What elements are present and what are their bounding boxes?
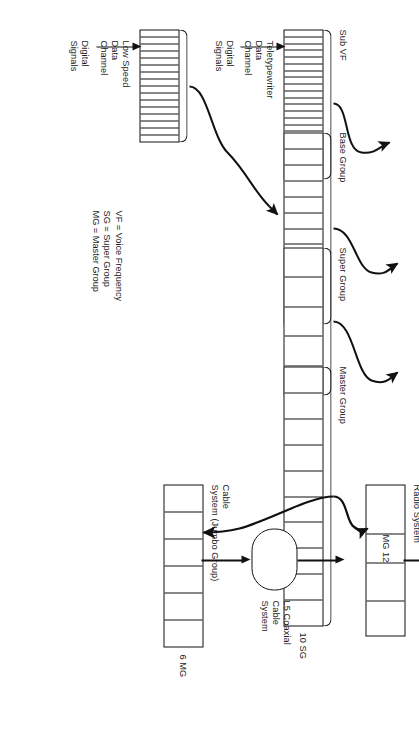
bar-cell [164,539,202,566]
bar-cell [284,77,322,84]
bar-cell [284,84,322,91]
label-l5-coaxial-cable-system: L5 Coaxial Cable System [258,600,291,644]
bar-cell [140,79,178,86]
connector-subvf2-arrowhead-path [269,206,277,214]
label-teletypewriter-data-channel: Teletypewriter Data Channel [241,40,274,98]
label-digital-signals-teletypewriter: Digital Signals [212,40,234,71]
bar-cell [284,445,322,471]
arrow-head-coax-out [335,555,344,563]
bar-cell [284,165,322,181]
bar-cell [284,57,322,64]
label-sub-vf: Sub VF [336,29,347,60]
bar-cell [284,497,322,523]
bar-cell [140,37,178,44]
bar-cell [284,197,322,213]
bar-cell [140,93,178,100]
bar-cell [164,512,202,539]
bar-cell [284,50,322,57]
bar-cell [284,336,322,365]
bar-cell [284,229,322,245]
bar-cell [284,213,322,229]
legend: VF = Voice Frequency SG = Super Group MG… [89,210,124,301]
bar-cell [284,104,322,111]
bar-cell-mg12: MG 12 [366,534,404,563]
label-cable-system-capacity: 6 MG [176,654,187,677]
bar-cell [140,51,178,58]
arrow-shaft-cable-to-coax [201,559,243,561]
arrow-head-digital-to-subvf-2 [132,42,141,50]
bar-cell [284,91,322,98]
figure-vector-overlay [0,0,419,739]
bar-cell [164,593,202,620]
bar-cell [366,563,404,601]
bar-cable-system [163,484,203,647]
bar-cell [140,114,178,121]
arrow-shaft-digital-to-subvf-2 [96,46,134,48]
bar-cell [140,107,178,114]
bar-cell [284,277,322,306]
bar-cell [284,64,322,71]
bar-cell [284,30,322,37]
bar-cell [140,128,178,135]
bar-cell [284,125,322,132]
connector-master-to-radio-system [333,496,367,530]
bar-cell [140,135,178,141]
label-super-group: Super Group [336,247,347,301]
fdm-hierarchy-figure: Sub VF Teletypewriter Data Channel Digit… [0,0,419,739]
bar-cell [140,30,178,37]
bar-cell [366,485,404,534]
label-digital-signals-lowspeed: Digital Signals [67,40,89,71]
bar-cell [284,118,322,125]
bar-cell [284,307,322,336]
arrow-head-digital-to-subvf-1 [276,42,285,50]
bar-master-group [283,366,323,626]
coaxial-terminal-capsule [251,528,297,590]
bar-cell [140,65,178,72]
bar-cell [284,248,322,277]
arrow-head-cable-to-coax [241,555,250,563]
bar-cell [284,367,322,393]
bar-cell [284,181,322,197]
bar-cell [284,71,322,78]
label-cable-system: Cable System (Jumbo Group) [208,484,230,581]
bar-cell [140,58,178,65]
bar-cell [164,485,202,512]
bar-cell [284,133,322,149]
bar-cell [164,566,202,593]
bar-cell [140,121,178,128]
bar-radio-system: MG 12 [365,484,405,636]
label-master-group: Master Group [336,366,347,423]
bar-cell [164,620,202,646]
bar-cell [140,86,178,93]
label-master-group-capacity: 10 SG [296,632,307,659]
label-mg-12: MG 12 [380,534,391,562]
bar-cell [140,100,178,107]
bar-cell [284,419,322,445]
bar-cell [284,37,322,44]
bar-cell [284,149,322,165]
label-base-group: Base Group [336,132,347,182]
bar-cell [140,72,178,79]
bar-cell [284,98,322,105]
arrow-shaft-radio-to-microwave [403,559,419,561]
connector-subvf2-to-base-group [189,86,269,206]
arrow-shaft-digital-to-subvf-1 [240,46,278,48]
bar-cell [284,44,322,51]
arrow-shaft-coax-out [297,559,337,561]
bar-cell [284,393,322,419]
label-radio-system: Radio System [410,484,419,542]
bar-cell [284,111,322,118]
bar-cell [140,44,178,51]
bar-cell [366,601,404,635]
bar-sub-vf-lowspeed [139,29,179,142]
bar-cell [284,471,322,497]
